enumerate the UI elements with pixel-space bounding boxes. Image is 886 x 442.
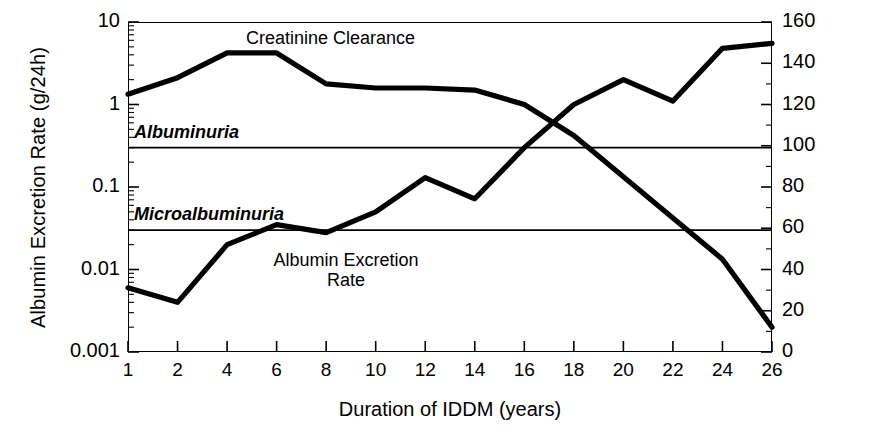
- albumin-excretion-rate-label: Albumin Excretion Rate: [246, 250, 446, 290]
- x-tick-label: 8: [301, 359, 351, 381]
- y-tick-label-left: 0.01: [20, 257, 120, 280]
- x-tick-label: 4: [202, 359, 252, 381]
- data-series: [128, 43, 772, 327]
- x-tick-label: 24: [697, 359, 747, 381]
- microalbuminuria-threshold-label: Microalbuminuria: [134, 204, 284, 225]
- x-axis-ticks: [128, 341, 772, 352]
- x-tick-label: 6: [252, 359, 302, 381]
- x-axis-label: Duration of IDDM (years): [128, 398, 772, 421]
- y-axis-ticks-left: [128, 22, 139, 352]
- x-tick-label: 14: [450, 359, 500, 381]
- y-tick-label-right: 160: [782, 9, 815, 32]
- x-tick-label: 26: [747, 359, 797, 381]
- x-tick-label: 2: [153, 359, 203, 381]
- y-tick-label-right: 120: [782, 92, 815, 115]
- aer-label-line2: Rate: [327, 270, 365, 290]
- x-tick-label: 10: [351, 359, 401, 381]
- y-tick-label-right: 20: [782, 298, 804, 321]
- albuminuria-threshold-label: Albuminuria: [134, 122, 239, 143]
- x-tick-label: 1: [103, 359, 153, 381]
- x-tick-label: 16: [499, 359, 549, 381]
- y-tick-label-right: 140: [782, 50, 815, 73]
- y-tick-label-right: 80: [782, 174, 804, 197]
- chart-canvas: [128, 22, 772, 352]
- x-tick-label: 12: [400, 359, 450, 381]
- x-tick-label: 22: [648, 359, 698, 381]
- y-tick-label-right: 100: [782, 133, 815, 156]
- x-tick-label: 18: [549, 359, 599, 381]
- y-tick-label-left: 1: [20, 92, 120, 115]
- y-tick-label-right: 60: [782, 215, 804, 238]
- y-tick-label-left: 10: [20, 9, 120, 32]
- series-line-albumin-excretion-rate: [128, 43, 772, 302]
- aer-label-line1: Albumin Excretion: [273, 250, 418, 270]
- chart-figure: Albumin Excretion Rate (g/24h) GFR (ml/m…: [0, 0, 886, 442]
- creatinine-clearance-label: Creatinine Clearance: [246, 28, 415, 49]
- y-axis-ticks-right: [761, 22, 772, 352]
- x-tick-label: 20: [598, 359, 648, 381]
- plot-area: Creatinine Clearance Albumin Excretion R…: [128, 22, 772, 352]
- y-tick-label-left: 0.1: [20, 174, 120, 197]
- y-tick-label-right: 40: [782, 257, 804, 280]
